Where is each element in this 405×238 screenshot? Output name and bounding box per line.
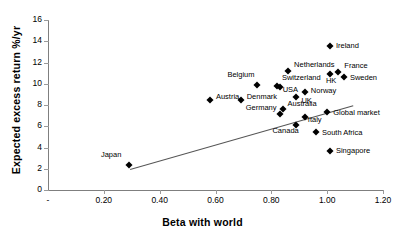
data-point-label: Global market [333,109,380,117]
x-tick-label: 0.20 [84,195,124,205]
data-point-label: Australia [288,100,317,108]
data-point-label: South Africa [322,129,362,137]
data-point-marker [206,96,213,103]
data-point-marker [326,147,333,154]
x-tick-mark [160,190,161,194]
data-point-label: Norway [311,87,336,95]
x-tick-label: 1.20 [363,195,403,205]
data-point-label: Japan [101,151,121,159]
x-tick-label: 0.40 [140,195,180,205]
data-point-marker [312,128,319,135]
data-point-label: Denmark [247,93,277,101]
data-point-label: Belgium [227,71,254,79]
plot-area: JapanAustriaDenmarkBelgiumSwitzerlandUSA… [48,20,383,190]
x-tick-label: 1.00 [307,195,347,205]
data-point-marker [326,42,333,49]
data-point-label: Switzerland [282,74,321,82]
data-point-label: Singapore [336,147,370,155]
data-point-label: Ireland [336,42,359,50]
x-tick-mark [216,190,217,194]
data-point-label: Sweden [350,74,377,82]
data-point-marker [301,89,308,96]
data-point-marker [335,69,342,76]
y-tick-mark [44,190,49,191]
x-axis-title: Beta with world [0,216,405,228]
data-point-label: Canada [272,127,298,135]
y-axis-title: Expected excess return %/yr [10,20,22,180]
data-point-label: Austria [216,93,239,101]
x-tick-mark [327,190,328,194]
x-tick-label: 0.60 [196,195,236,205]
scatter-chart: 0246810121416 -0.200.400.600.801.001.20 … [0,0,405,238]
x-tick-mark [383,190,384,194]
data-point-marker [254,81,261,88]
x-tick-mark [104,190,105,194]
data-point-label: Italy [308,116,322,124]
data-point-marker [324,109,331,116]
x-tick-label: 0.80 [251,195,291,205]
x-tick-label: - [28,195,68,205]
data-point-label: HK [326,77,336,85]
data-point-label: France [344,62,367,70]
data-point-label: Germany [246,104,277,112]
x-tick-mark [271,190,272,194]
y-tick-label: 0 [8,185,42,194]
data-point-marker [125,161,132,168]
data-point-label: Netherlands [294,61,334,69]
data-point-marker [340,74,347,81]
